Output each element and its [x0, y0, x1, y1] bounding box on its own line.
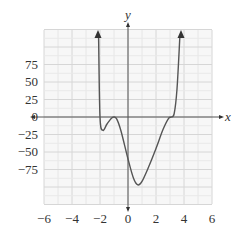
y-tick-label: −50 — [18, 144, 38, 159]
y-tick-label: −25 — [18, 127, 38, 142]
chart: x y 7550250−25−50−75 −6−4−20246 — [0, 0, 243, 234]
y-tick-label: −75 — [18, 162, 38, 177]
y-tick-label: 75 — [25, 57, 38, 72]
x-tick-label: −2 — [93, 211, 107, 226]
y-tick-label: 0 — [32, 109, 39, 124]
y-tick-label: 50 — [25, 74, 38, 89]
y-axis-arrow-up-icon — [126, 22, 130, 27]
x-tick-label: 4 — [181, 211, 188, 226]
x-tick-label: −6 — [37, 211, 51, 226]
x-tick-label: 6 — [209, 211, 216, 226]
x-axis-label: x — [224, 109, 231, 124]
x-tick-label: −4 — [65, 211, 79, 226]
y-axis-label: y — [123, 7, 131, 22]
y-tick-labels: 7550250−25−50−75 — [18, 57, 38, 177]
x-tick-label: 2 — [153, 211, 160, 226]
x-axis-arrow-right-icon — [219, 115, 224, 119]
y-tick-label: 25 — [25, 92, 38, 107]
x-tick-labels: −6−4−20246 — [37, 211, 216, 226]
x-tick-label: 0 — [125, 211, 132, 226]
